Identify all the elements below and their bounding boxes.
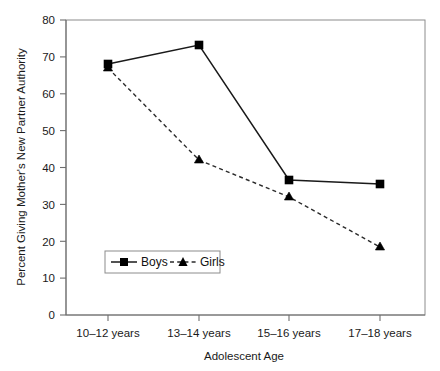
- y-axis-title: Percent Giving Mother's New Partner Auth…: [15, 48, 27, 286]
- legend-boys-square-marker-icon: [120, 258, 128, 266]
- boys-point-0: [104, 60, 112, 68]
- chart-figure: 80 70 60 50 40 30 20 10 0 10–12 years 13…: [0, 0, 440, 371]
- series-boys: [104, 41, 384, 188]
- y-tick-label-20: 20: [42, 236, 55, 248]
- x-axis-ticks: [108, 315, 380, 321]
- y-tick-label-10: 10: [42, 272, 55, 284]
- y-tick-label-40: 40: [42, 162, 55, 174]
- legend-label-girls: Girls: [200, 255, 225, 269]
- y-tick-label-0: 0: [49, 309, 55, 321]
- y-tick-label-80: 80: [42, 14, 55, 26]
- chart-legend: Boys Girls: [105, 251, 225, 273]
- y-tick-label-60: 60: [42, 88, 55, 100]
- x-tick-label-0: 10–12 years: [76, 327, 140, 339]
- legend-label-boys: Boys: [141, 255, 168, 269]
- x-tick-label-3: 17–18 years: [348, 327, 412, 339]
- series-girls: [103, 63, 384, 250]
- y-tick-label-70: 70: [42, 51, 55, 63]
- y-axis-tick-labels: 80 70 60 50 40 30 20 10 0: [42, 14, 55, 321]
- line-chart-canvas: 80 70 60 50 40 30 20 10 0 10–12 years 13…: [0, 0, 440, 371]
- y-tick-label-50: 50: [42, 125, 55, 137]
- y-axis-ticks: [60, 20, 66, 315]
- x-axis-tick-labels: 10–12 years 13–14 years 15–16 years 17–1…: [76, 327, 412, 339]
- boys-point-3: [376, 180, 384, 188]
- boys-line: [108, 45, 380, 184]
- girls-line: [108, 68, 380, 247]
- x-tick-label-2: 15–16 years: [257, 327, 321, 339]
- boys-point-1: [195, 41, 203, 49]
- y-tick-label-30: 30: [42, 199, 55, 211]
- x-axis-title: Adolescent Age: [204, 350, 284, 362]
- boys-point-2: [285, 176, 293, 184]
- x-tick-label-1: 13–14 years: [167, 327, 231, 339]
